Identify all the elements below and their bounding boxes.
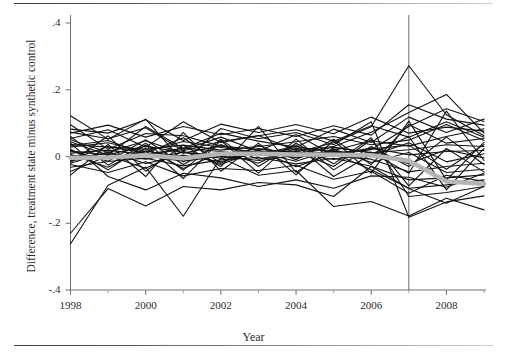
series-line-state-17 bbox=[71, 167, 485, 234]
x-tick-label: 2000 bbox=[126, 299, 166, 311]
figure-container: .4.20-.2-.4 199820002002200420062008 Yea… bbox=[0, 0, 507, 354]
y-tick-label: -.2 bbox=[37, 216, 61, 228]
y-axis-title: Difference, treatment state minus synthe… bbox=[25, 21, 37, 291]
x-tick-label: 1998 bbox=[51, 299, 91, 311]
x-tick-label: 2006 bbox=[351, 299, 391, 311]
series-lines bbox=[71, 66, 485, 244]
x-axis-title: Year bbox=[0, 330, 507, 345]
x-tick-label: 2004 bbox=[276, 299, 316, 311]
y-tick-label: .4 bbox=[37, 16, 61, 28]
x-tick-label: 2002 bbox=[201, 299, 241, 311]
y-tick-label: .2 bbox=[37, 83, 61, 95]
x-tick-label: 2008 bbox=[426, 299, 466, 311]
y-tick-label: 0 bbox=[37, 150, 61, 162]
series-line-state-01 bbox=[71, 66, 485, 152]
y-tick-label: -.4 bbox=[37, 283, 61, 295]
